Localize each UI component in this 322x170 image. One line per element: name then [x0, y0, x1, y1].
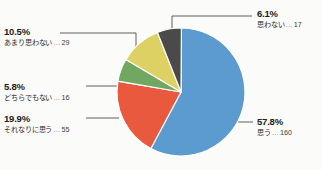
callout-omou-percent: 57.8%: [257, 116, 292, 127]
callout-omowanai-percent: 6.1%: [257, 8, 302, 19]
callout-amari-detail: あまり思わない…29: [4, 38, 70, 48]
callout-omowanai-count: 17: [294, 20, 302, 29]
callout-sorenari-ni-omou: 19.9% それなりに思う…55: [4, 113, 70, 135]
callout-dochira-demo-nai: 5.8% どちらでもない…16: [4, 81, 70, 103]
callout-sorenari-count: 55: [62, 125, 70, 134]
callout-amari-omowanai: 10.5% あまり思わない…29: [4, 26, 70, 48]
leader-line-amari: [60, 33, 136, 54]
callout-omou-count: 160: [280, 128, 292, 137]
callout-omou: 57.8% 思う…160: [257, 116, 292, 138]
callout-dochira-category: どちらでもない: [4, 93, 52, 102]
callout-omowanai: 6.1% 思わない…17: [257, 8, 302, 30]
pie-slices: [117, 28, 245, 156]
callout-omowanai-category: 思わない: [257, 20, 285, 29]
callout-omowanai-detail: 思わない…17: [257, 20, 302, 30]
pie-chart-figure: 10.5% あまり思わない…29 5.8% どちらでもない…16 19.9% そ…: [0, 0, 322, 170]
callout-amari-count: 29: [62, 38, 70, 47]
callout-sorenari-detail: それなりに思う…55: [4, 125, 70, 135]
callout-amari-separator: …: [52, 38, 61, 47]
callout-omou-category: 思う: [257, 128, 271, 137]
callout-omou-detail: 思う…160: [257, 128, 292, 138]
callout-omowanai-separator: …: [285, 20, 294, 29]
callout-sorenari-percent: 19.9%: [4, 113, 70, 124]
callout-dochira-percent: 5.8%: [4, 81, 70, 92]
callout-sorenari-separator: …: [52, 125, 61, 134]
callout-amari-category: あまり思わない: [4, 38, 52, 47]
callout-dochira-detail: どちらでもない…16: [4, 93, 70, 103]
callout-omou-separator: …: [271, 128, 280, 137]
callout-dochira-separator: …: [52, 93, 61, 102]
callout-amari-percent: 10.5%: [4, 26, 70, 37]
callout-dochira-count: 16: [62, 93, 70, 102]
callout-sorenari-category: それなりに思う: [4, 125, 52, 134]
